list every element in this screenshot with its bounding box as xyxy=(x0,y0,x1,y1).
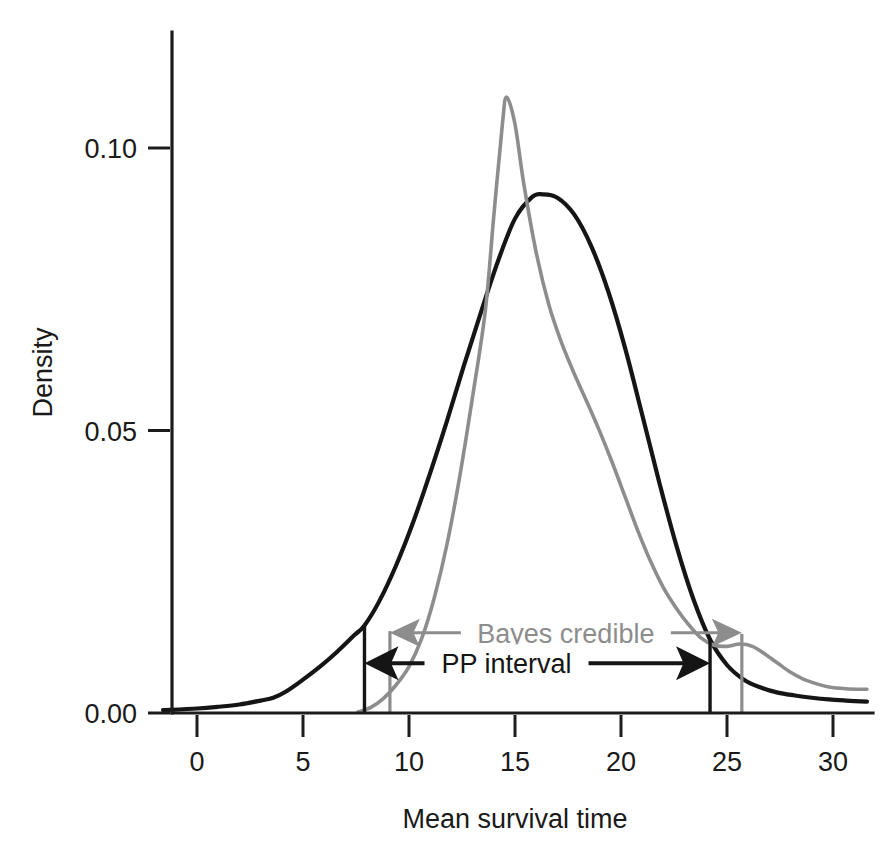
axis-label-layer: 0510152025300.000.050.10Mean survival ti… xyxy=(28,134,848,834)
x-tick-label-10: 10 xyxy=(394,747,424,777)
bayes-credible-annotation-label: Bayes credible xyxy=(477,619,654,649)
x-tick-label-15: 15 xyxy=(500,747,530,777)
y-axis-title: Density xyxy=(28,327,58,418)
y-tick-label-0.05: 0.05 xyxy=(84,417,137,447)
x-tick-label-25: 25 xyxy=(712,747,742,777)
x-tick-label-5: 5 xyxy=(295,747,310,777)
y-tick-label-0.10: 0.10 xyxy=(84,134,137,164)
pp-interval-annotation-label: PP interval xyxy=(441,649,571,679)
chart-canvas: Bayes crediblePP interval 0510152025300.… xyxy=(0,0,885,855)
density-plot-figure: Bayes crediblePP interval 0510152025300.… xyxy=(0,0,885,855)
x-axis-title: Mean survival time xyxy=(402,804,627,834)
x-tick-label-20: 20 xyxy=(606,747,636,777)
x-tick-label-30: 30 xyxy=(818,747,848,777)
y-tick-label-0.00: 0.00 xyxy=(84,699,137,729)
x-tick-label-0: 0 xyxy=(189,747,204,777)
annotation-layer: Bayes crediblePP interval xyxy=(364,614,741,683)
